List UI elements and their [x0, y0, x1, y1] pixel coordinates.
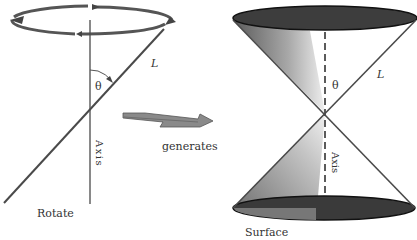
- right-caption: Surface: [245, 226, 288, 239]
- rotation-arrow-icon: [10, 4, 176, 37]
- generates-arrow-icon: [123, 113, 213, 127]
- right-line-label: L: [376, 68, 384, 81]
- generates-label: generates: [162, 140, 218, 153]
- right-angle-label: θ: [332, 79, 339, 92]
- left-caption: Rotate: [37, 207, 74, 220]
- cone-generation-diagram: θ L Axis Rotate generates θ L Axis Surfa…: [0, 0, 417, 240]
- left-line-label: L: [150, 57, 158, 70]
- left-axis-label: Axis: [94, 139, 105, 167]
- left-angle-label: θ: [95, 80, 102, 93]
- top-ellipse: [233, 6, 417, 30]
- right-axis-label: Axis: [330, 151, 341, 173]
